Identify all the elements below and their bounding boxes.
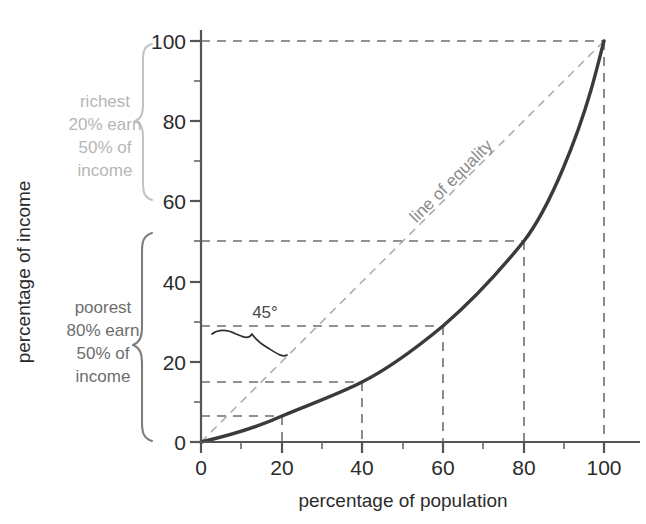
poorest-label-line3: 50% of — [77, 344, 130, 363]
richest-label-line4: income — [78, 161, 133, 180]
x-tick-label-0: 0 — [195, 456, 207, 479]
x-tick-label-20: 20 — [270, 456, 293, 479]
y-tick-label-20: 20 — [163, 351, 186, 374]
angle-45-label: 45° — [252, 303, 278, 322]
lorenz-curve-figure: 100 80 60 40 20 0 0 20 40 60 80 100 perc… — [0, 0, 646, 524]
richest-label-line1: richest — [80, 92, 130, 111]
richest-label-line3: 50% of — [79, 138, 132, 157]
poorest-label-line2: 80% earn — [67, 321, 140, 340]
poorest-label-line1: poorest — [75, 298, 132, 317]
x-tick-label-100: 100 — [586, 456, 621, 479]
x-tick-label-60: 60 — [431, 456, 454, 479]
y-tick-label-40: 40 — [163, 271, 186, 294]
poorest-label-line4: income — [76, 367, 131, 386]
x-tick-label-80: 80 — [512, 456, 535, 479]
y-tick-label-60: 60 — [163, 190, 186, 213]
chart-svg: 100 80 60 40 20 0 0 20 40 60 80 100 perc… — [0, 0, 646, 524]
x-axis-title: percentage of population — [298, 490, 507, 511]
y-tick-label-0: 0 — [174, 431, 186, 454]
y-axis-title: percentage of income — [13, 181, 34, 364]
y-tick-label-100: 100 — [151, 30, 186, 53]
figure-background — [0, 0, 646, 524]
richest-label-line2: 20% earn — [69, 115, 142, 134]
x-tick-label-40: 40 — [350, 456, 373, 479]
y-tick-label-80: 80 — [163, 110, 186, 133]
